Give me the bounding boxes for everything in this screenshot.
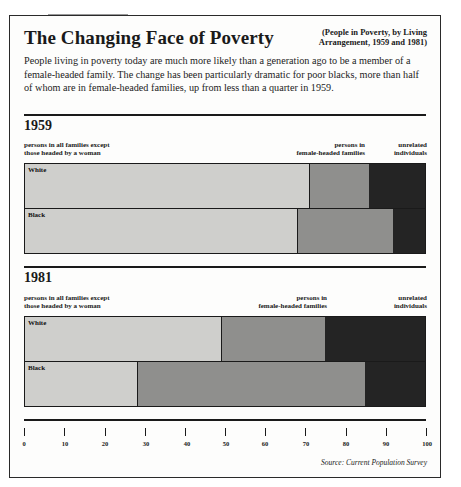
legend-label-line: persons in all families except: [24, 294, 110, 302]
row-label: White: [28, 319, 46, 327]
tick-label: 10: [62, 440, 69, 447]
legend-label-line: persons in: [296, 141, 365, 149]
tick-mark: [386, 428, 387, 436]
source-note: Source: Current Population Survey: [321, 458, 427, 467]
tick-mark: [64, 428, 65, 436]
tick-mark: [305, 428, 306, 436]
segment-female-headed: [221, 317, 325, 361]
segment-female-headed: [297, 209, 393, 253]
legend-label-line: persons in: [258, 294, 327, 302]
tick-label: 90: [383, 440, 390, 447]
legend-label-female-headed: persons in female-headed families: [296, 141, 365, 157]
row-label: Black: [28, 211, 45, 219]
legend-label-line: female-headed families: [258, 302, 327, 310]
legend-label-families-except: persons in all families except those hea…: [24, 141, 110, 157]
segment-families-except: White: [25, 164, 309, 208]
subtitle-line-2: Arrangement, 1959 and 1981): [319, 38, 427, 48]
segment-families-except: White: [25, 317, 221, 361]
bar-1959-white: White: [25, 164, 425, 208]
legend-label-female-headed: persons in female-headed families: [258, 294, 327, 310]
segment-unrelated: [365, 362, 425, 406]
chart-subtitle: (People in Poverty, by Living Arrangemen…: [319, 28, 427, 47]
row-label: White: [28, 166, 46, 174]
legend-label-line: those headed by a woman: [24, 302, 110, 310]
tick-label: 40: [184, 440, 191, 447]
legend-label-line: persons in all families except: [24, 141, 110, 149]
panel-1981-bars: White Black: [24, 316, 426, 407]
bar-1959-black: Black: [25, 208, 425, 253]
x-axis-line: [24, 419, 426, 421]
panel-1981-year: 1981: [24, 270, 52, 286]
tick-mark: [24, 428, 25, 436]
tick-label: 0: [22, 440, 25, 447]
segment-female-headed: [137, 362, 365, 406]
tick-mark: [225, 428, 226, 436]
chart-title: The Changing Face of Poverty: [24, 27, 274, 49]
legend-label-line: female-headed families: [296, 149, 365, 157]
bar-1981-white: White: [25, 317, 425, 361]
panel-1981-rule: [24, 266, 426, 268]
panel-1959-bars: White Black: [24, 163, 426, 254]
tick-mark: [145, 428, 146, 436]
tick-mark: [185, 428, 186, 436]
segment-unrelated: [369, 164, 425, 208]
panel-1959-rule: [24, 114, 426, 116]
panel-1959-year: 1959: [24, 118, 52, 134]
legend-label-unrelated: unrelated individuals: [394, 141, 427, 157]
intro-paragraph: People living in poverty today are much …: [24, 54, 428, 95]
tick-label: 60: [262, 440, 269, 447]
legend-label-line: unrelated: [394, 141, 427, 149]
tick-label: 70: [303, 440, 310, 447]
tick-label: 20: [102, 440, 109, 447]
segment-families-except: Black: [25, 362, 137, 406]
legend-label-unrelated: unrelated individuals: [394, 294, 427, 310]
legend-label-line: those headed by a woman: [24, 149, 110, 157]
tick-label: 50: [223, 440, 230, 447]
legend-label-line: unrelated: [394, 294, 427, 302]
legend-label-line: individuals: [394, 302, 427, 310]
legend-label-line: individuals: [394, 149, 427, 157]
tick-label: 100: [422, 440, 432, 447]
tick-mark: [346, 428, 347, 436]
segment-families-except: Black: [25, 209, 297, 253]
bar-1981-black: Black: [25, 361, 425, 406]
segment-unrelated: [393, 209, 425, 253]
segment-female-headed: [309, 164, 369, 208]
tick-mark: [105, 428, 106, 436]
row-label: Black: [28, 364, 45, 372]
tick-mark: [265, 428, 266, 436]
segment-unrelated: [325, 317, 425, 361]
tick-label: 80: [343, 440, 350, 447]
legend-label-families-except: persons in all families except those hea…: [24, 294, 110, 310]
tick-mark: [426, 428, 427, 436]
tick-label: 30: [143, 440, 150, 447]
